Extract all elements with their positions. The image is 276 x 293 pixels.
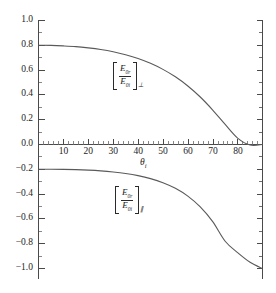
denominator-subscript: 0i [128, 206, 132, 212]
y-tick-label-neg0.2: −0.2 [0, 164, 33, 174]
fraction-perpendicular: E0r E0i [117, 62, 133, 90]
fraction-numerator: E0r [121, 188, 133, 201]
numerator-subscript: 0r [128, 192, 133, 198]
curve-perpendicular-reflection [39, 45, 263, 145]
x-tick-label-50: 50 [151, 147, 175, 157]
y-tick-label-0.4: 0.4 [2, 89, 33, 99]
x-axis-title-subscript: i [145, 162, 147, 169]
x-axis-title: θi [140, 157, 146, 169]
x-tick-label-30: 30 [101, 147, 125, 157]
x-tick-label-80: 80 [226, 147, 250, 157]
annotation-perpendicular-ratio: E0r E0i ⊥ [113, 62, 144, 90]
y-tick-label-1.0: 1.0 [2, 15, 33, 25]
annotation-parallel-ratio: E0r E0i ∥ [115, 186, 143, 214]
annotation-outer-subscript: ∥ [139, 205, 143, 214]
x-tick-label-60: 60 [176, 147, 200, 157]
y-tick-label-0.6: 0.6 [2, 65, 33, 75]
y-tick-label-neg0.6: −0.6 [0, 213, 33, 223]
y-tick-label-neg0.4: −0.4 [0, 189, 33, 199]
annotation-outer-subscript: ⊥ [137, 81, 144, 90]
y-tick-label-neg0.8: −0.8 [0, 238, 33, 248]
y-tick-label-0.0: 0.0 [2, 139, 33, 149]
fraction-denominator: E0i [121, 201, 133, 213]
curve-parallel-reflection [39, 169, 263, 268]
x-tick-label-40: 40 [126, 147, 150, 157]
numerator-subscript: 0r [126, 68, 131, 74]
x-tick-label-10: 10 [51, 147, 75, 157]
x-tick-label-70: 70 [201, 147, 225, 157]
y-tick-label-0.8: 0.8 [2, 40, 33, 50]
y-tick-label-neg1.0: −1.0 [0, 263, 33, 273]
fresnel-reflection-coefficient-chart: 1.0 0.8 0.6 0.4 0.2 0.0 −0.2 −0.4 −0.6 −… [0, 0, 276, 293]
y-tick-label-0.2: 0.2 [2, 114, 33, 124]
x-tick-label-20: 20 [76, 147, 100, 157]
fraction-parallel: E0r E0i [119, 186, 135, 214]
fraction-numerator: E0r [119, 64, 131, 77]
x-major-ticks [63, 139, 238, 145]
fraction-denominator: E0i [119, 77, 131, 89]
denominator-subscript: 0i [126, 82, 130, 88]
